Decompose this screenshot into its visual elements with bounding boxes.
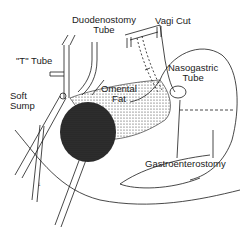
label-duodenostomy-tube: Duodenostomy Tube (72, 15, 136, 35)
t-tube (62, 35, 75, 45)
surgical-diagram: ↓ Duodenostomy Tube "T" Tube Vagi Cut Na… (0, 0, 242, 234)
label-omental-fat: Omental Fat (101, 84, 137, 104)
label-t-tube: "T" Tube (16, 56, 52, 66)
label-line: Fat (101, 94, 137, 104)
label-line: Tube (168, 73, 218, 83)
label-soft-sump: Soft Sump (10, 91, 35, 111)
anatomy-drawing: ↓ (0, 0, 242, 234)
svg-text:↓: ↓ (38, 181, 41, 187)
label-line: Tube (72, 25, 136, 35)
label-vagi-cut: Vagi Cut (155, 16, 191, 26)
label-gastroenterostomy: Gastroenterostomy (145, 159, 226, 169)
label-nasogastric-tube: Nasogastric Tube (168, 63, 218, 83)
duodenal-mass (60, 102, 116, 162)
duodenostomy-tube (78, 42, 92, 92)
label-line: Sump (10, 101, 35, 111)
